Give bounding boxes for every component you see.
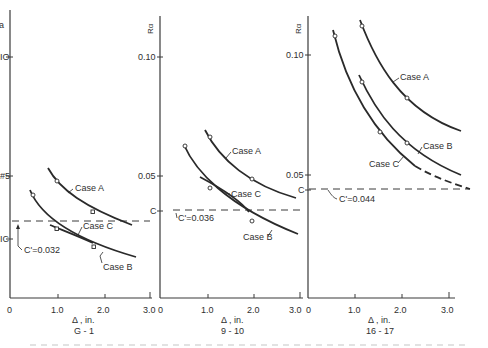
label-case-c: Case C [369,159,400,169]
x-tick-label: 1.0 [51,305,64,315]
label-case-b: Case B [103,262,133,272]
y-tick-label: C [150,206,157,216]
panel-subtitle: 9 - 10 [221,326,244,336]
curve-case-c-extrapolated [415,166,470,189]
y-axis-label: Rα [294,23,303,34]
x-tick-label: 3.0 [143,305,156,315]
y-tick-label: 0.10 [286,50,304,60]
x-tick-label: 3.0 [441,305,454,315]
label-case-a: Case A [400,72,429,82]
panel-subtitle: G - 1 [74,326,94,336]
label-case-b: Case B [423,141,453,151]
curve-case-a [48,168,132,225]
x-tick-label: 1.0 [201,305,214,315]
y-tick-label: IO [0,52,10,62]
label-case-a: Case A [232,146,261,156]
y-tick-label: IC [0,234,10,244]
x-axis-label: Δ , in. [221,315,244,325]
x-tick-label: 0 [306,305,311,315]
x-tick-label: 0 [158,305,163,315]
c-prime-label: C'=0.044 [339,194,375,204]
x-tick-label: 2.0 [247,305,260,315]
x-tick-label: 2.0 [97,305,110,315]
panel-9-10: 0.10 0.05 C Rα 0 1.0 2.0 3.0 Δ , in. 9 -… [138,16,303,336]
c-prime-label: C'=0.036 [178,213,214,223]
x-tick-label: 3.0 [289,305,302,315]
c-prime-label: C'=0.032 [24,245,60,255]
x-axis-label: Δ , in. [72,315,95,325]
figure-panels: IO #5 IC a 0 1.0 2.0 3.0 Δ , in. G - 1 C… [0,0,488,348]
y-tick-label: #5 [0,171,10,181]
y-tick-label: 0.05 [286,170,304,180]
y-tick-label: C [298,185,305,195]
label-case-a: Case A [75,183,104,193]
label-case-c: Case C [231,189,262,199]
x-tick-label: 0 [7,305,12,315]
label-case-c: Case C [83,221,114,231]
y-axis-label: a [0,20,4,30]
x-tick-label: 1.0 [348,305,361,315]
y-axis-label: Rα [146,23,155,34]
label-case-b: Case B [243,232,273,242]
y-tick-label: 0.10 [138,52,156,62]
y-tick-label: 0.05 [138,171,156,181]
x-axis-label: Δ , in. [368,315,391,325]
panel-16-17: 0.10 0.05 C Rα 0 1.0 2.0 3.0 Δ , in. 16 … [286,16,470,336]
x-tick-label: 2.0 [394,305,407,315]
panel-g1: IO #5 IC a 0 1.0 2.0 3.0 Δ , in. G - 1 C… [0,10,156,336]
panel-subtitle: 16 - 17 [366,326,394,336]
